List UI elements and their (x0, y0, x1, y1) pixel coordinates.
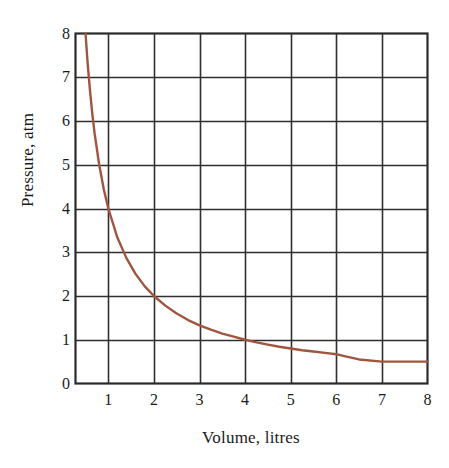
x-tick-label: 8 (416, 392, 440, 408)
x-tick-label: 1 (96, 392, 120, 408)
gridlines (76, 34, 428, 384)
x-tick-label: 6 (324, 392, 348, 408)
x-tick-label: 3 (188, 392, 212, 408)
pressure-volume-chart: Pressure, atm 012345678 12345678 Volume,… (0, 0, 449, 468)
x-axis-title: Volume, litres (75, 428, 427, 448)
x-tick-label: 5 (279, 392, 303, 408)
x-axis-tick-labels: 12345678 (0, 392, 449, 416)
axes-frame (76, 34, 428, 384)
data-curve (86, 34, 428, 362)
x-tick-label: 4 (233, 392, 257, 408)
x-tick-label: 2 (142, 392, 166, 408)
axis-frame-rect (76, 34, 428, 384)
x-tick-label: 7 (370, 392, 394, 408)
